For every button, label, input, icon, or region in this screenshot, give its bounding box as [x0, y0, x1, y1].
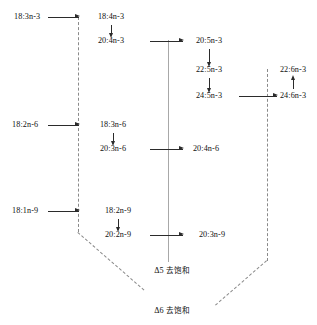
delta6-name: 去饱和	[166, 306, 190, 315]
delta5-name: 去饱和	[166, 266, 190, 275]
node-18-4n-3: 18:4n-3	[98, 12, 124, 22]
delta6-symbol: Δ6	[154, 306, 163, 315]
arrow-22-5n-3-to-24-5n-3	[209, 78, 210, 89]
node-22-5n-3: 22:5n-3	[196, 65, 222, 75]
pathway-diagram: 18:3n-3 18:4n-3 20:4n-3 20:5n-3 22:5n-3 …	[0, 0, 317, 325]
arrow-18-2n-6-to-18-3n-6	[48, 125, 79, 126]
delta5-spine	[168, 40, 169, 262]
delta6-dashed-left-diagonal	[77, 232, 144, 290]
enzyme-label-delta6: Δ6 去饱和	[154, 306, 189, 316]
node-18-2n-9: 18:2n-9	[105, 206, 131, 216]
node-24-5n-3: 24:5n-3	[196, 91, 222, 101]
arrow-24-5n-3-to-24-6n-3	[239, 96, 277, 97]
arrow-18-3n-6-to-20-3n-6	[113, 133, 114, 142]
node-22-6n-3: 22:6n-3	[280, 65, 306, 75]
node-18-3n-6: 18:3n-6	[100, 120, 126, 130]
arrow-20-5n-3-to-22-5n-3	[209, 49, 210, 63]
arrow-20-3n-6-to-20-4n-6	[150, 149, 183, 150]
arrow-20-4n-3-to-20-5n-3	[150, 41, 183, 42]
node-20-3n-9: 20:3n-9	[199, 230, 225, 240]
node-18-1n-9: 18:1n-9	[12, 206, 38, 216]
delta6-dashed-right-vertical	[267, 69, 268, 261]
node-20-3n-6: 20:3n-6	[100, 144, 126, 154]
arrow-18-3n-3-to-18-4n-3	[48, 17, 79, 18]
arrow-20-2n-9-to-20-3n-9	[150, 235, 183, 236]
delta6-dashed-right-diagonal	[215, 260, 267, 305]
arrow-24-6n-3-to-22-6n-3	[293, 79, 294, 89]
arrow-18-1n-9-to-18-2n-9	[48, 211, 79, 212]
enzyme-label-delta5: Δ5 去饱和	[154, 266, 189, 276]
delta5-symbol: Δ5	[154, 266, 163, 275]
node-20-5n-3: 20:5n-3	[196, 36, 222, 46]
node-20-4n-6: 20:4n-6	[193, 144, 219, 154]
node-18-2n-6: 18:2n-6	[12, 120, 38, 130]
node-20-2n-9: 20:2n-9	[105, 230, 131, 240]
node-24-6n-3: 24:6n-3	[280, 91, 306, 101]
node-18-3n-3: 18:3n-3	[14, 12, 40, 22]
node-20-4n-3: 20:4n-3	[98, 36, 124, 46]
arrow-18-2n-9-to-20-2n-9	[118, 219, 119, 228]
arrow-18-4n-3-to-20-4n-3	[111, 25, 112, 34]
